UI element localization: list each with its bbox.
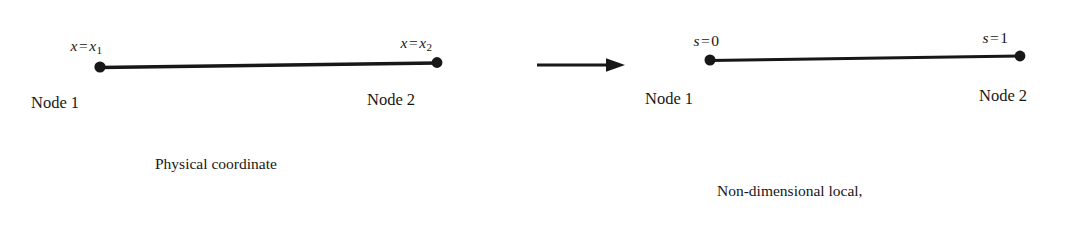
mapping-arrow-head (606, 58, 625, 72)
left-node2-coord-subscript: 2 (426, 41, 432, 53)
left-node2-coord-value-var: x (419, 34, 426, 51)
left-node1-coord-equals: = (77, 37, 89, 54)
right-node2-dot (1015, 51, 1026, 62)
left-node2-coordinate-label: x=x2 (385, 16, 432, 73)
figure-canvas: x=x1 x=x2 Node 1 Node 2 Physical coordin… (0, 0, 1082, 237)
right-node2-coordinate-label: s=1 (967, 11, 1008, 66)
left-node1-label: Node 1 (31, 93, 79, 112)
left-node2-dot (432, 57, 443, 68)
right-node1-coord-equals: = (700, 32, 712, 49)
right-node2-coord-value: 1 (1000, 29, 1008, 46)
figure-strokes (0, 0, 1082, 237)
right-node2-coord-equals: = (989, 29, 1001, 46)
left-node1-coordinate-label: x=x1 (55, 19, 102, 76)
left-diagram-caption: Physical coordinate (155, 155, 277, 173)
right-caption-line-1: Non-dimensional local, (717, 182, 863, 200)
right-diagram-caption: Non-dimensional local, element, or paren… (717, 145, 863, 237)
left-node1-coord-subscript: 1 (96, 44, 102, 56)
right-caption-line-2: element, or parent (717, 236, 863, 237)
right-node2-label: Node 2 (979, 86, 1027, 105)
left-node2-coord-equals: = (407, 34, 419, 51)
right-node1-coordinate-label: s=0 (678, 14, 719, 69)
right-node1-coord-value: 0 (711, 32, 719, 49)
left-node1-coord-value-var: x (89, 37, 96, 54)
right-node2-coord-var: s (983, 29, 989, 46)
right-node1-coord-var: s (694, 32, 700, 49)
right-node1-label: Node 1 (645, 89, 693, 108)
left-node2-label: Node 2 (367, 90, 415, 109)
